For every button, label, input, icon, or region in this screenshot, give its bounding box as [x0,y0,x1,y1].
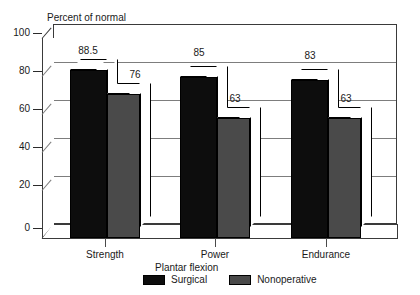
bar-nonoperative-power [217,118,250,238]
bar-side-face [140,83,151,227]
y-tick-dash-20 [33,185,42,186]
x-tick-power [215,238,216,247]
bar-surgical-strength [70,70,107,238]
gridline-80 [54,62,396,63]
bar-nonoperative-strength [107,94,140,238]
x-label-strength: Strength [75,249,135,260]
x-tick-endurance [326,238,327,247]
value-label-nonoperative-endurance: 63 [316,94,376,104]
y-tick-dash-0 [33,228,42,229]
y-tick-dash-60 [33,109,42,110]
bar-side-face [361,107,372,227]
legend-label-nonoperative: Nonoperative [257,274,316,285]
legend-label-surgical: Surgical [171,274,207,285]
legend-item-surgical: Surgical [143,274,207,285]
y-tick-label-20: 20 [4,180,30,190]
legend-item-nonoperative: Nonoperative [229,274,316,285]
value-label-nonoperative-strength: 76 [115,70,155,80]
value-label-surgical-endurance: 83 [280,51,340,61]
bar-face [217,118,250,238]
y-tick-label-100: 100 [4,28,30,38]
bar-side-face [250,107,261,227]
chart-legend: Surgical Nonoperative [143,274,317,285]
bar-face [70,70,107,238]
value-label-surgical-strength: 88.5 [58,46,118,56]
x-label-endurance: Endurance [293,249,359,260]
y-tick-label-40: 40 [4,142,30,152]
y-tick-dash-100 [33,33,42,34]
y-tick-dash-40 [33,147,42,148]
y-tick-label-0: 0 [4,223,30,233]
bar-chart: Percent of normal 100 80 60 40 20 0 88.5 [0,0,420,295]
bar-nonoperative-endurance [328,118,361,238]
plot-floor-right-edge [397,224,398,239]
value-label-surgical-power: 85 [169,48,229,58]
x-axis-title: Plantar flexion [155,262,218,273]
bar-face [328,118,361,238]
value-label-nonoperative-power: 63 [205,94,265,104]
y-tick-label-80: 80 [4,66,30,76]
y-tick-label-60: 60 [4,104,30,114]
y-tick-dash-80 [33,71,42,72]
x-label-power: Power [185,249,245,260]
y-axis-title: Percent of normal [47,12,126,23]
plot-left-vertical-edge [42,38,43,238]
legend-swatch-surgical-icon [143,275,165,285]
legend-swatch-nonoperative-icon [229,275,251,285]
bar-face [107,94,140,238]
plot-floor-front-edge [42,238,398,239]
x-tick-strength [105,238,106,247]
